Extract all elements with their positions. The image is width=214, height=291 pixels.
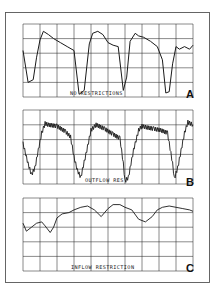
- waveform-figure: NO RESTRICTIONS A OUTFLOW RES B INFLOW R…: [0, 0, 214, 291]
- panel-c-letter: C: [186, 262, 194, 274]
- panel-b-label: OUTFLOW RES: [85, 177, 124, 183]
- panel-a-label: NO RESTRICTIONS: [70, 90, 123, 96]
- panel-c-label: INFLOW RESTRICTION: [71, 264, 134, 270]
- panel-b-letter: B: [186, 176, 194, 188]
- panel-a-letter: A: [186, 88, 194, 100]
